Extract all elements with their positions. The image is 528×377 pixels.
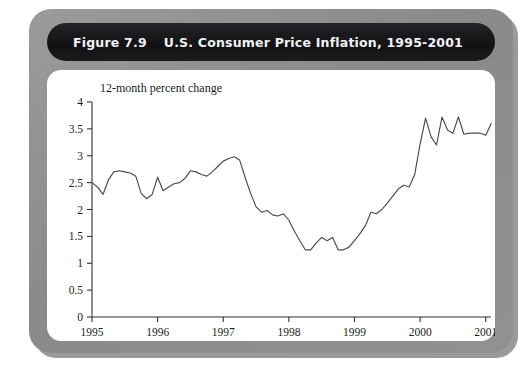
inflation-series-line (92, 117, 491, 250)
x-tick-label: 1997 (212, 326, 235, 338)
figure-number-label: Figure 7.9 (73, 35, 147, 50)
chart-panel: 00.511.522.533.54 1995199619971998199920… (47, 70, 495, 341)
y-tick-label: 2.5 (69, 177, 84, 189)
y-tick-label: 0.5 (69, 284, 84, 296)
y-axis-ticks: 00.511.522.533.54 (69, 96, 92, 323)
y-tick-label: 3.5 (69, 123, 84, 135)
x-tick-label: 1996 (146, 326, 169, 338)
y-tick-label: 2 (77, 204, 83, 216)
figure-container: Figure 7.9 U.S. Consumer Price Inflation… (0, 0, 528, 377)
figure-title: U.S. Consumer Price Inflation, 1995-2001 (164, 35, 463, 50)
y-axis-caption: 12-month percent change (100, 81, 222, 95)
y-tick-label: 1.5 (69, 230, 84, 242)
x-tick-label: 2000 (409, 326, 432, 338)
x-tick-label: 1995 (81, 326, 104, 338)
x-axis-ticks: 1995199619971998199920002001 (81, 317, 496, 338)
line-chart: 00.511.522.533.54 1995199619971998199920… (47, 70, 495, 341)
y-tick-label: 4 (77, 96, 83, 108)
x-tick-label: 2001 (474, 326, 495, 338)
y-tick-label: 1 (77, 257, 83, 269)
figure-title-bar: Figure 7.9 U.S. Consumer Price Inflation… (47, 23, 495, 61)
chart-axes (92, 102, 491, 317)
x-tick-label: 1999 (343, 326, 366, 338)
y-tick-label: 3 (77, 150, 83, 162)
y-tick-label: 0 (77, 311, 83, 323)
x-tick-label: 1998 (277, 326, 300, 338)
